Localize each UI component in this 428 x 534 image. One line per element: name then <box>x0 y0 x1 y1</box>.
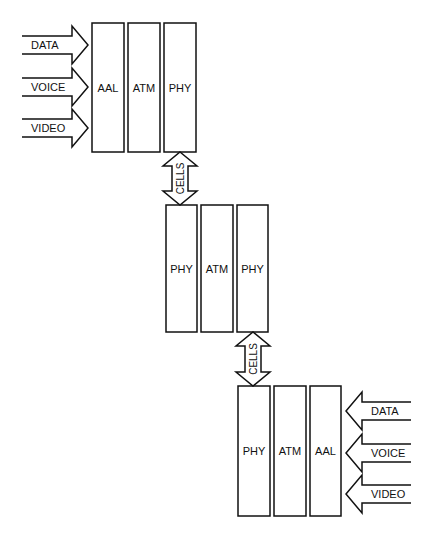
input-label: VOICE <box>371 447 405 459</box>
layer-atm: ATM <box>274 386 306 516</box>
layer-label: PHY <box>243 445 266 457</box>
layer-label: PHY <box>241 263 264 275</box>
input-label: VIDEO <box>31 122 66 134</box>
atm-protocol-diagram: AALATMPHYPHYATMPHYPHYATMAALDATAVOICEVIDE… <box>0 0 428 534</box>
stack-source-end-system: AALATMPHY <box>92 23 196 152</box>
input-label: DATA <box>31 39 59 51</box>
input-arrow-data: DATA <box>22 26 88 64</box>
input-arrow-video: VIDEO <box>346 475 411 513</box>
layer-label: AAL <box>98 82 119 94</box>
cells-link-arrow: CELLS <box>163 152 197 205</box>
layer-aal: AAL <box>310 386 341 516</box>
stack-destination-end-system: PHYATMAAL <box>238 386 341 516</box>
layer-phy: PHY <box>237 205 268 332</box>
cells-label: CELLS <box>175 162 186 194</box>
layer-label: ATM <box>133 82 155 94</box>
input-arrow-voice: VOICE <box>22 68 88 106</box>
layer-phy: PHY <box>166 205 197 332</box>
layer-atm: ATM <box>201 205 233 332</box>
input-label: VIDEO <box>371 488 406 500</box>
layer-label: PHY <box>170 263 193 275</box>
layer-atm: ATM <box>128 23 160 152</box>
cells-link-arrow: CELLS <box>236 332 270 386</box>
layer-phy: PHY <box>164 23 196 152</box>
stack-atm-switch: PHYATMPHY <box>166 205 268 332</box>
cells-label: CELLS <box>248 343 259 375</box>
layer-label: AAL <box>315 445 336 457</box>
input-label: DATA <box>371 405 399 417</box>
input-arrow-data: DATA <box>346 392 411 430</box>
input-label: VOICE <box>31 81 65 93</box>
input-arrow-voice: VOICE <box>346 434 411 472</box>
layer-label: ATM <box>279 445 301 457</box>
input-arrow-video: VIDEO <box>22 109 88 147</box>
layer-aal: AAL <box>92 23 124 152</box>
layer-label: PHY <box>169 82 192 94</box>
layer-phy: PHY <box>238 386 270 516</box>
layer-label: ATM <box>206 263 228 275</box>
